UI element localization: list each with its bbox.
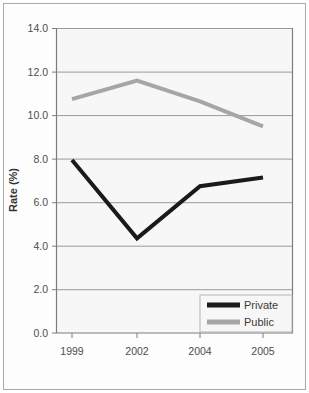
y-tick-label-6: 6.0 — [33, 196, 48, 208]
y-tick-label-2: 2.0 — [33, 283, 48, 295]
x-tick-label-2002: 2002 — [125, 345, 149, 357]
y-tick-label-4: 4.0 — [33, 240, 48, 252]
y-tick-label-0: 0.0 — [33, 327, 48, 339]
x-tick-label-2004: 2004 — [188, 345, 212, 357]
legend-label-private: Private — [244, 299, 278, 311]
y-tick-label-14: 14.0 — [28, 22, 49, 34]
legend: Private Public — [200, 295, 292, 332]
x-tick-label-2005: 2005 — [251, 345, 275, 357]
chart-figure: 14.0 12.0 10.0 8.0 6.0 4.0 2.0 0.0 1999 … — [0, 0, 309, 393]
legend-label-public: Public — [244, 316, 274, 328]
y-tick-label-12: 12.0 — [28, 66, 49, 78]
x-tick-label-1999: 1999 — [60, 345, 84, 357]
line-chart: 14.0 12.0 10.0 8.0 6.0 4.0 2.0 0.0 1999 … — [0, 0, 309, 393]
y-tick-label-10: 10.0 — [28, 109, 49, 121]
y-tick-marks — [52, 29, 56, 334]
plot-area-background — [56, 28, 293, 333]
y-tick-label-8: 8.0 — [33, 153, 48, 165]
y-axis-title: Rate (%) — [7, 168, 19, 212]
x-tick-marks — [72, 333, 263, 338]
